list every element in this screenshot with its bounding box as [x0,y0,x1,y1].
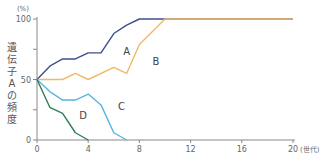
y-tick-label: 0 [26,136,31,145]
x-tick-label: 0 [34,145,39,154]
series-label-d: D [79,110,87,121]
x-tick-label: 16 [237,145,247,154]
x-tick-label: 8 [137,145,142,154]
x-tick-label: 12 [186,145,196,154]
x-tick-label: 4 [86,145,91,154]
y-unit: (%) [17,5,29,13]
line-chart: 050100(%)048121620(世代)ABCD [0,0,328,161]
series-label-c: C [118,101,125,112]
series-label-b: B [153,56,160,67]
x-unit: (世代) [300,145,320,154]
y-tick-label: 100 [16,15,31,24]
y-tick-label: 50 [21,76,31,85]
series-label-a: A [123,46,130,57]
x-tick-label: 20 [288,145,298,154]
series-line-a [37,19,293,80]
y-axis-label: 遺伝子Aの頻度 [5,42,19,126]
series-line-b [37,19,293,80]
